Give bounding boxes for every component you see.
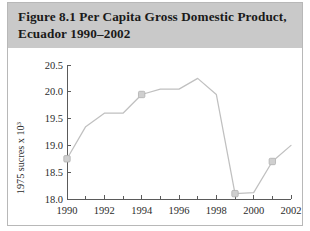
y-axis-title: 1975 sucres x 103	[15, 121, 26, 194]
chart-plot-panel: 1975 sucres x 103 20.520.019.519.018.518…	[8, 48, 302, 225]
x-tick-label: 1992	[94, 205, 115, 216]
data-point-marker	[232, 190, 238, 196]
y-tick-labels: 20.520.019.519.018.518.0	[45, 60, 63, 205]
figure-container: Figure 8.1 Per Capita Gross Domestic Pro…	[8, 3, 302, 225]
x-tick-label: 2000	[243, 205, 264, 216]
y-tick-label: 18.5	[45, 167, 63, 178]
y-axis-title-superscript: 3	[15, 121, 23, 125]
svg-text:1975 sucres x 103: 1975 sucres x 103	[15, 121, 26, 194]
x-tick-label: 2002	[281, 205, 302, 216]
y-tick-label: 18.0	[45, 194, 63, 205]
figure-title: Figure 8.1 Per Capita Gross Domestic Pro…	[18, 8, 292, 42]
x-tick-label: 1996	[169, 205, 190, 216]
x-tick-label: 1990	[57, 205, 78, 216]
y-tick-label: 20.5	[45, 60, 63, 71]
x-tick-label: 1994	[131, 205, 153, 216]
data-point-marker	[138, 91, 144, 97]
y-tick-label: 19.5	[45, 113, 63, 124]
data-series-markers	[64, 91, 276, 197]
y-tick-label: 20.0	[45, 86, 63, 97]
data-point-marker	[64, 156, 70, 162]
x-tick-marks	[67, 195, 291, 199]
y-axis-title-text: 1975 sucres x 10	[15, 125, 26, 194]
y-tick-marks	[67, 65, 71, 199]
y-tick-label: 19.0	[45, 140, 63, 151]
figure-title-band: Figure 8.1 Per Capita Gross Domestic Pro…	[8, 3, 302, 48]
data-series-line	[67, 78, 291, 193]
x-tick-label: 1998	[206, 205, 227, 216]
line-chart: 1975 sucres x 103 20.520.019.519.018.518…	[8, 48, 302, 225]
axis-spines	[67, 65, 291, 199]
x-tick-labels: 1990199219941996199820002002	[57, 205, 302, 216]
data-point-marker	[269, 158, 275, 164]
